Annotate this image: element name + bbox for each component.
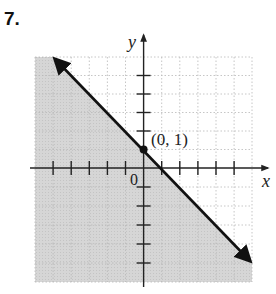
point-label: (0, 1) [151,130,188,149]
coordinate-graph: (0, 1) 0 x y [0,0,276,294]
origin-label: 0 [130,171,138,188]
point-0-1 [140,146,148,154]
y-axis-label: y [126,32,136,52]
x-axis-label: x [261,171,270,191]
